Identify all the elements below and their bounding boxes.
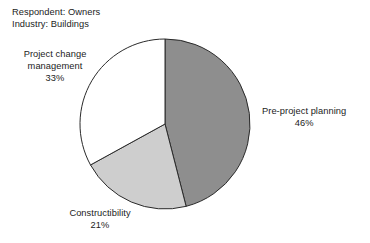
slice-label-name: Pre-project planning [262,106,346,116]
slice-label-pre-project-planning: Pre-project planning 46% [262,106,346,130]
slice-label-constructibility: Constructibility 21% [40,208,160,232]
slice-label-name: Constructibility [69,208,130,218]
slice-label-percent: 33% [5,73,105,85]
pie-slice-group [80,39,250,209]
chart-canvas: Respondent: Owners Industry: Buildings P… [0,0,370,243]
slice-label-percent: 46% [262,118,346,130]
slice-label-project-change-management: Project change management 33% [5,49,105,84]
slice-label-name-line1: Project change [24,49,87,59]
slice-label-name-line2: management [5,61,105,73]
slice-label-percent: 21% [40,220,160,232]
